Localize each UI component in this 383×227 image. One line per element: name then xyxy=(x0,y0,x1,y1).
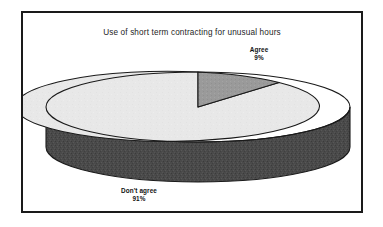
scanned-page-background: Use of short term contracting for unusua… xyxy=(0,0,383,227)
pie-label-dont-agree-name: Don't agree xyxy=(121,187,157,194)
pie-label-dont-agree-percent: 91% xyxy=(101,195,177,203)
pie-chart-graphic xyxy=(23,13,361,211)
pie-label-agree-percent: 9% xyxy=(229,54,289,62)
pie-label-agree-name: Agree xyxy=(250,46,269,53)
pie-label-agree: Agree 9% xyxy=(229,46,289,61)
pie-label-dont-agree: Don't agree 91% xyxy=(101,187,177,202)
chart-frame: Use of short term contracting for unusua… xyxy=(21,11,363,213)
